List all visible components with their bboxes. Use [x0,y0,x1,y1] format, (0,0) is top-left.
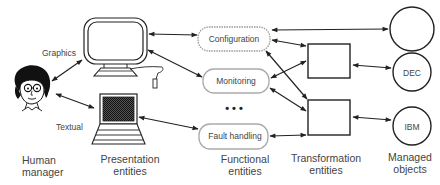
transformation-entity-2 [308,100,350,135]
edge-label-textual: Textual [56,122,83,132]
arrow-workstation-config [149,34,197,35]
text-terminal-icon [92,94,145,144]
svg-text:entities: entities [309,164,342,176]
network-management-diagram: Graphics Textual Configuration Monitorin… [0,0,440,185]
svg-text:Managed: Managed [388,151,432,163]
fault-handling-label: Fault handling [208,131,262,141]
arrow-human-workstation [52,60,82,81]
edge-label-graphics: Graphics [42,48,76,58]
arrow-fault-tx2 [270,135,306,136]
svg-text:Transformation: Transformation [291,152,361,164]
ellipsis-dots: • • • [225,102,243,114]
arrow-tx2-ibm [353,117,391,120]
managed-object-ibm: IBM [393,107,431,145]
svg-text:objects: objects [393,163,426,175]
managed-object-dec: DEC [393,53,431,91]
svg-text:manager: manager [22,166,64,178]
arrow-config-tx1 [272,40,306,46]
arrow-terminal-fault [139,117,198,129]
dec-label: DEC [403,68,421,78]
transformation-entity-1 [308,44,350,78]
arrow-config-object1 [272,29,388,30]
human-manager-icon [15,65,51,111]
functional-entity-monitoring: Monitoring [203,69,269,93]
svg-text:Presentation: Presentation [101,153,160,165]
arrow-config-tx2 [266,51,307,99]
configuration-label: Configuration [209,34,260,44]
svg-text:Functional: Functional [221,153,269,165]
column-label-human: Human manager [22,154,64,178]
svg-text:Human: Human [22,154,56,166]
graphics-workstation-icon [84,18,163,88]
monitoring-label: Monitoring [216,76,256,86]
ibm-label: IBM [404,122,419,132]
functional-entity-fault-handling: Fault handling [199,124,268,149]
svg-text:entities: entities [228,165,261,177]
column-label-transformation: Transformation entities [291,152,361,176]
column-label-managed: Managed objects [388,151,432,175]
arrow-workstation-monitoring [148,50,202,77]
managed-object-1 [390,7,434,51]
svg-text:entities: entities [113,165,146,177]
functional-entity-configuration: Configuration [198,27,270,51]
column-label-presentation: Presentation entities [101,153,160,177]
arrow-tx1-dec [353,65,391,68]
column-label-functional: Functional entities [221,153,269,177]
arrow-human-terminal [56,94,94,108]
